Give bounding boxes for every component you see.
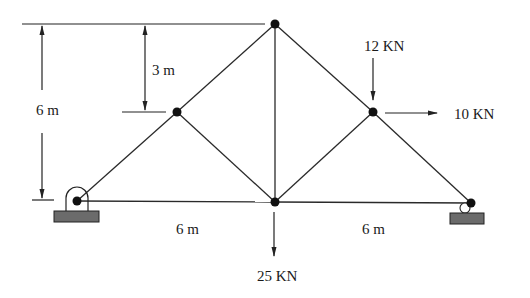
node-E <box>467 199 476 208</box>
node-D <box>369 108 378 117</box>
ground-block-right <box>450 213 484 224</box>
ground-block-left <box>54 211 99 222</box>
height-6m-label: 6 m <box>36 102 59 118</box>
member-A-F <box>77 201 275 202</box>
member-B-F <box>177 112 275 202</box>
member-D-F <box>275 112 373 202</box>
load-25kn-label: 25 KN <box>257 268 298 284</box>
member-D-E <box>373 112 471 203</box>
member-B-C <box>177 24 275 112</box>
node-F <box>271 198 280 207</box>
height-3m-label: 3 m <box>152 62 175 78</box>
span-right-label: 6 m <box>362 221 385 237</box>
truss-diagram: 6 m 3 m 6 m 6 m 12 KN 10 KN 25 KN <box>0 0 530 298</box>
roller-support <box>450 203 484 224</box>
node-A <box>73 197 82 206</box>
member-A-B <box>77 112 177 201</box>
span-left-label: 6 m <box>176 221 199 237</box>
node-B <box>173 108 182 117</box>
node-C <box>271 20 280 29</box>
load-10kn-label: 10 KN <box>454 106 495 122</box>
load-arrows <box>274 58 437 256</box>
member-F-E <box>275 202 471 203</box>
member-C-D <box>275 24 373 112</box>
load-12kn-label: 12 KN <box>364 38 405 54</box>
